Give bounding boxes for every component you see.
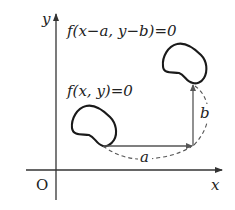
original-curve-shape: [72, 106, 116, 147]
y-axis-label: y: [41, 10, 51, 28]
translated-curve-equation: f(x−a, y−b)=0: [66, 22, 177, 40]
x-axis-label: x: [211, 176, 220, 194]
horizontal-translation-label: a: [140, 148, 149, 166]
origin-label: O: [36, 176, 48, 194]
vertical-translation-label: b: [200, 104, 210, 122]
translation-diagram: y x O f(x−a, y−b)=0 f(x, y)=0 a b: [0, 0, 235, 210]
translated-curve-shape: [163, 44, 207, 84]
original-curve-equation: f(x, y)=0: [66, 82, 133, 100]
